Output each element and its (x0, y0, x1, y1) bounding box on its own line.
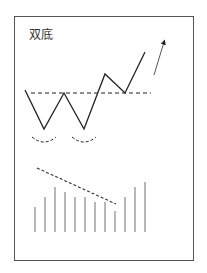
bottom-arc (72, 137, 96, 142)
breakout-arrow-icon (154, 42, 164, 75)
volume-trend-dashed (37, 168, 116, 204)
bottom-arcs (32, 137, 96, 142)
double-bottom-chart (0, 0, 207, 273)
volume-bars (35, 182, 145, 232)
price-path-line (25, 52, 145, 129)
bottom-arc (32, 137, 56, 142)
